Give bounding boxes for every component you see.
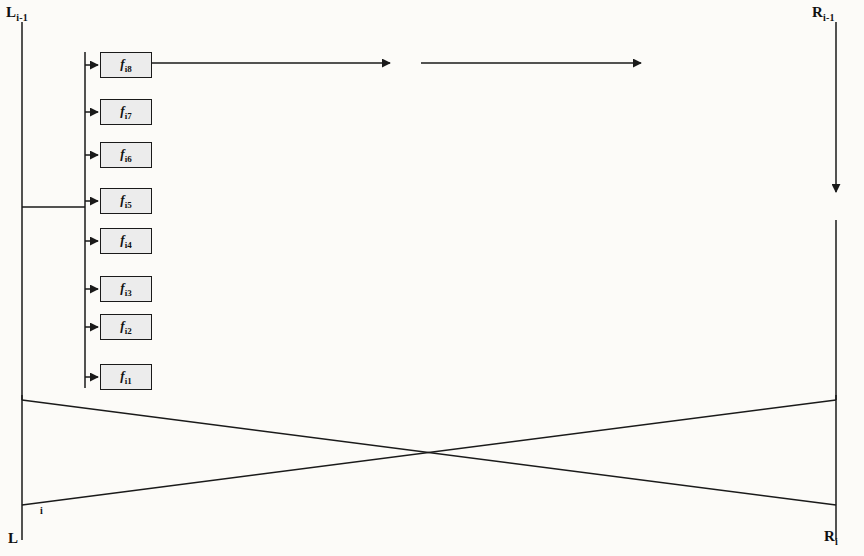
function-block-fi4: fi4 — [100, 228, 152, 254]
function-block-label: fi1 — [120, 368, 131, 386]
diagram-canvas: Li-1 Ri-1 L i Ri fi8fi7fi6fi5fi4fi3fi2fi… — [0, 0, 864, 556]
function-block-label: fi2 — [120, 318, 131, 336]
function-block-label: fi4 — [120, 232, 131, 250]
function-block-label: fi3 — [120, 280, 131, 298]
function-block-subscript: i1 — [125, 376, 132, 386]
function-block-label: fi6 — [120, 146, 131, 164]
function-block-fi7: fi7 — [100, 99, 152, 125]
function-block-label: fi5 — [120, 192, 131, 210]
function-block-subscript: i2 — [125, 326, 132, 336]
label-top-left: Li-1 — [6, 4, 28, 23]
function-block-fi5: fi5 — [100, 188, 152, 214]
function-block-subscript: i5 — [125, 200, 132, 210]
function-block-fi1: fi1 — [100, 364, 152, 390]
function-block-fi6: fi6 — [100, 142, 152, 168]
function-block-fi2: fi2 — [100, 314, 152, 340]
label-bottom-left: L — [8, 530, 18, 547]
label-top-right: Ri-1 — [812, 4, 835, 23]
label-bottom-left-subscript: i — [40, 505, 43, 516]
function-block-subscript: i3 — [125, 288, 132, 298]
function-block-subscript: i8 — [125, 64, 132, 74]
function-block-subscript: i6 — [125, 154, 132, 164]
function-block-subscript: i7 — [125, 111, 132, 121]
function-block-fi8: fi8 — [100, 52, 152, 78]
function-block-fi3: fi3 — [100, 276, 152, 302]
label-bottom-right: Ri — [824, 528, 838, 547]
function-block-label: fi8 — [120, 56, 131, 74]
function-block-subscript: i4 — [125, 240, 132, 250]
function-block-label: fi7 — [120, 103, 131, 121]
